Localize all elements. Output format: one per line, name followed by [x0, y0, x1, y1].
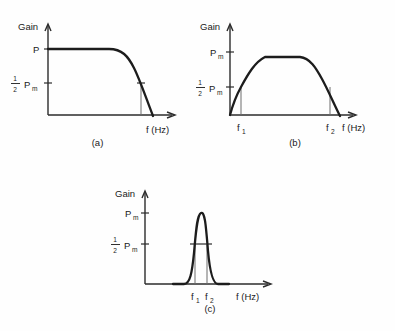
chart-a-ytick-label-p-main: P	[24, 79, 30, 90]
chart-panel-b: Gain P m 1 2 P m f 1 f 2	[195, 0, 395, 160]
chart-c-xtick-label-f2-main: f	[205, 291, 208, 302]
chart-a-svg: Gain P 1 2 P m f (Hz)	[0, 0, 195, 160]
chart-b-xtick-label-f2-sub: 2	[331, 128, 335, 135]
svg-text:2: 2	[198, 90, 202, 97]
chart-a-x-axis-label: f (Hz)	[146, 124, 169, 135]
chart-b-ytick-label-pm: P m	[210, 47, 224, 60]
chart-b-xtick-label-f1: f 1	[237, 122, 246, 135]
chart-b-gain-curve	[230, 57, 340, 116]
chart-c-caption: (c)	[110, 303, 310, 314]
chart-c-ytick-label-pm-sub: m	[133, 214, 139, 221]
chart-a-y-axis	[45, 24, 51, 115]
chart-c-ytick-label-pm-main: P	[125, 208, 131, 219]
chart-b-xtick-label-f1-sub: 1	[242, 128, 246, 135]
svg-text:1: 1	[13, 75, 17, 82]
chart-a-ytick-label-p: P	[33, 44, 39, 55]
chart-a-caption: (a)	[0, 137, 195, 148]
chart-a-ytick-label-p-sub: m	[32, 85, 38, 92]
chart-c-xtick-label-f1-main: f	[191, 291, 194, 302]
svg-text:2: 2	[13, 86, 17, 93]
chart-c-ytick-label-halfpm-main: P	[124, 240, 130, 251]
chart-b-xtick-label-f2: f 2	[326, 122, 335, 135]
chart-b-x-axis-label: f (Hz)	[342, 122, 365, 133]
chart-b-ytick-label-halfpm-sub: m	[217, 89, 223, 96]
figure-root: Gain P 1 2 P m f (Hz) (a)	[0, 0, 395, 331]
chart-b-ytick-label-pm-main: P	[210, 47, 216, 58]
svg-text:1: 1	[113, 236, 117, 243]
chart-a-y-axis-label: Gain	[18, 21, 38, 32]
chart-b-ytick-label-pm-sub: m	[218, 53, 224, 60]
chart-c-gain-curve	[173, 213, 229, 284]
chart-a-x-axis	[48, 112, 175, 118]
chart-c-x-axis-label: f (Hz)	[236, 291, 259, 302]
chart-c-ytick-label-halfpm-sub: m	[132, 246, 138, 253]
chart-b-svg: Gain P m 1 2 P m f 1 f 2	[195, 0, 395, 160]
chart-b-y-axis	[227, 24, 233, 115]
chart-b-ytick-label-half-pm: 1 2 P m	[196, 79, 223, 97]
svg-text:1: 1	[198, 79, 202, 86]
chart-b-xtick-label-f2-main: f	[326, 122, 329, 133]
chart-c-ytick-label-pm: P m	[125, 208, 139, 221]
svg-text:2: 2	[113, 247, 117, 254]
chart-a-ytick-label-half-pm: 1 2 P m	[11, 75, 38, 93]
chart-b-y-axis-label: Gain	[200, 21, 220, 32]
chart-b-xtick-label-f1-main: f	[237, 122, 240, 133]
chart-c-y-axis-label: Gain	[115, 188, 135, 199]
chart-b-ytick-label-halfpm-main: P	[209, 83, 215, 94]
chart-c-y-axis	[142, 191, 148, 284]
chart-c-x-axis	[145, 281, 271, 287]
chart-c-ytick-label-half-pm: 1 2 P m	[111, 236, 138, 254]
chart-b-caption: (b)	[195, 137, 395, 148]
chart-panel-a: Gain P 1 2 P m f (Hz)	[0, 0, 195, 160]
chart-b-x-axis	[230, 112, 356, 118]
